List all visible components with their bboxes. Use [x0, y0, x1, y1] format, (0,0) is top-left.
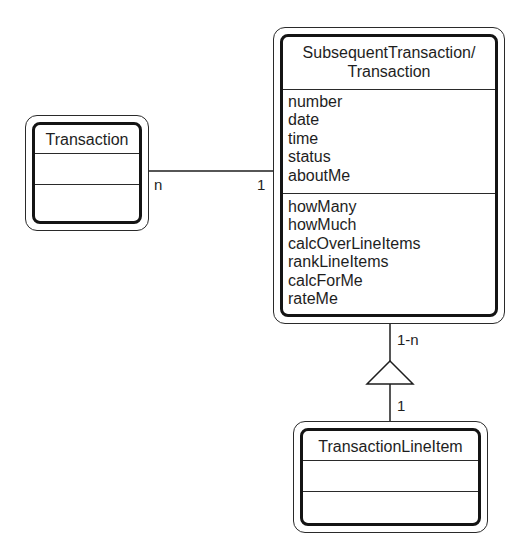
class-transaction[interactable]: Transaction [25, 115, 149, 231]
class-subsequent-transaction-attributes: number date time status aboutMe [283, 90, 495, 194]
class-subsequent-transaction-inner: SubsequentTransaction/ Transaction numbe… [280, 34, 498, 317]
multiplicity-label-n: n [154, 177, 162, 193]
attribute-about-me: aboutMe [288, 167, 495, 185]
class-subsequent-transaction[interactable]: SubsequentTransaction/ Transaction numbe… [273, 27, 505, 324]
class-transaction-line-item-attributes [303, 461, 478, 492]
attribute-status: status [288, 148, 495, 166]
class-transaction-line-item-operations [303, 492, 478, 523]
attribute-date: date [288, 111, 495, 129]
whole-part-triangle-icon [367, 361, 413, 384]
operation-calc-over-line-items: calcOverLineItems [288, 235, 495, 253]
attribute-number: number [288, 93, 495, 111]
class-subsequent-transaction-operations: howMany howMuch calcOverLineItems rankLi… [283, 194, 495, 314]
class-subsequent-transaction-name: SubsequentTransaction/ Transaction [283, 37, 495, 90]
class-transaction-inner: Transaction [32, 122, 142, 224]
operation-how-much: howMuch [288, 216, 495, 234]
multiplicity-label-1-part: 1 [397, 398, 405, 414]
multiplicity-label-1-association: 1 [257, 177, 265, 193]
operation-rank-line-items: rankLineItems [288, 253, 495, 271]
attribute-time: time [288, 130, 495, 148]
operation-rate-me: rateMe [288, 290, 495, 308]
class-transaction-line-item[interactable]: TransactionLineItem [293, 421, 488, 533]
class-transaction-operations [35, 185, 139, 221]
class-transaction-line-item-name: TransactionLineItem [303, 431, 478, 461]
class-transaction-line-item-inner: TransactionLineItem [300, 428, 481, 526]
multiplicity-label-1-n: 1-n [397, 332, 419, 348]
class-name-line-2: Transaction [283, 62, 495, 81]
class-transaction-name: Transaction [35, 125, 139, 154]
class-name-line-1: SubsequentTransaction/ [283, 43, 495, 62]
class-transaction-attributes [35, 154, 139, 185]
operation-how-many: howMany [288, 198, 495, 216]
operation-calc-for-me: calcForMe [288, 272, 495, 290]
